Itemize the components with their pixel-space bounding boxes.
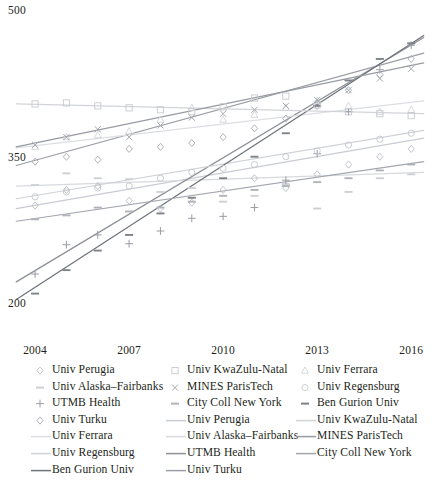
data-point-diamond <box>408 145 414 152</box>
marker-diamond-icon <box>30 362 52 379</box>
legend-item-label: Univ Regensburg <box>317 379 400 396</box>
legend-item-label: Univ Perugia <box>187 412 250 429</box>
legend-item: Univ Perugia <box>30 362 170 379</box>
y-tick-label: 200 <box>8 297 26 309</box>
data-point-triangle <box>408 106 415 112</box>
legend-item: Univ Ferrara <box>295 362 434 379</box>
legend-item-label: MINES ParisTech <box>317 428 403 445</box>
line-icon <box>295 428 317 445</box>
legend-item-label: Ben Gurion Univ <box>52 462 134 479</box>
marker-circle-icon <box>295 379 317 396</box>
legend-item-label: Univ KwaZulu-Natal <box>187 362 288 379</box>
data-point-circle <box>32 194 38 200</box>
legend-item: Univ Turku <box>30 412 170 429</box>
data-point-diamond <box>189 139 195 146</box>
data-point-diamond <box>189 199 195 206</box>
marker-dash-icon <box>30 379 52 396</box>
legend-item: Univ Ferrara <box>30 428 170 445</box>
data-point-diamond <box>63 153 69 160</box>
legend-item: MINES ParisTech <box>165 379 310 396</box>
data-point-diamond <box>95 156 101 163</box>
legend-item: City Coll New York <box>165 395 310 412</box>
trend-line-9 <box>16 162 423 222</box>
data-point-cross <box>345 87 351 93</box>
line-icon <box>165 445 187 462</box>
x-tick-label: 2010 <box>201 344 245 356</box>
data-point-circle <box>283 154 289 160</box>
trend-line-2 <box>16 37 423 281</box>
line-icon <box>295 445 317 462</box>
plot-area: 200350500 <box>0 0 434 336</box>
legend-item-label: Univ Ferrara <box>52 428 113 445</box>
data-point-circle <box>189 169 195 175</box>
legend-item-label: City Coll New York <box>317 445 412 462</box>
data-point-triangle <box>126 128 133 134</box>
data-point-diamond <box>377 153 383 160</box>
marker-dash-icon <box>295 395 317 412</box>
legend-item-label: Univ Alaska–Fairbanks <box>187 428 298 445</box>
legend-item-label: Univ KwaZulu-Natal <box>317 412 418 429</box>
marker-dash-icon <box>165 395 187 412</box>
legend-item: UTMB Health <box>30 395 170 412</box>
data-point-plus <box>94 231 102 239</box>
marker-plus-icon <box>30 395 52 412</box>
line-icon <box>165 428 187 445</box>
line-icon <box>165 462 187 479</box>
data-point-cross <box>377 75 383 81</box>
data-point-square <box>283 93 289 99</box>
x-tick-label: 2016 <box>389 344 433 356</box>
legend-item: Ben Gurion Univ <box>30 462 170 479</box>
data-point-diamond <box>220 186 226 193</box>
data-point-cross <box>408 66 414 72</box>
data-point-triangle <box>282 104 289 110</box>
legend-item-label: UTMB Health <box>187 445 255 462</box>
legend-item-label: City Coll New York <box>187 395 282 412</box>
data-point-plus <box>125 240 133 248</box>
data-point-diamond <box>126 145 132 152</box>
legend-item: Univ Regensburg <box>30 445 170 462</box>
legend-item: Univ Regensburg <box>295 379 434 396</box>
x-tick-label: 2013 <box>295 344 339 356</box>
data-point-triangle <box>376 108 383 114</box>
line-icon <box>295 412 317 429</box>
data-point-plus <box>251 204 259 212</box>
legend-item-label: Ben Gurion Univ <box>317 395 399 412</box>
trend-line-1 <box>16 172 423 186</box>
marker-cross-icon <box>165 379 187 396</box>
legend-item-label: Univ Perugia <box>52 362 115 379</box>
data-point-plus <box>31 270 39 278</box>
legend-item-label: Univ Alaska–Fairbanks <box>52 379 163 396</box>
data-point-circle <box>157 175 163 181</box>
data-point-plus <box>188 214 196 222</box>
marker-triangle-icon <box>295 362 317 379</box>
legend-item: Univ Perugia <box>165 412 310 429</box>
data-point-circle <box>377 136 383 142</box>
legend-item-label: Univ Regensburg <box>52 445 135 462</box>
data-point-triangle <box>188 104 195 110</box>
data-point-diamond <box>251 125 257 132</box>
line-icon <box>30 445 52 462</box>
legend-item-label: UTMB Health <box>52 395 120 412</box>
plot-canvas <box>0 0 434 336</box>
data-point-circle <box>251 161 257 167</box>
legend-item-label: MINES ParisTech <box>187 379 273 396</box>
data-point-plus <box>63 241 71 249</box>
x-axis: 20042007201020132016 <box>0 344 434 362</box>
legend-item: Univ Turku <box>165 462 310 479</box>
marker-square-icon <box>165 362 187 379</box>
legend-column-3: Univ FerraraUniv RegensburgBen Gurion Un… <box>295 362 434 462</box>
data-point-triangle <box>220 116 227 122</box>
legend-item-label: Univ Turku <box>187 462 242 479</box>
x-tick-label: 2004 <box>13 344 57 356</box>
legend-item: City Coll New York <box>295 445 434 462</box>
line-icon <box>30 428 52 445</box>
legend-column-1: Univ PerugiaUniv Alaska–FairbanksUTMB He… <box>30 362 170 478</box>
data-point-circle <box>126 183 132 189</box>
y-tick-label: 350 <box>8 151 26 163</box>
chart-legend: Univ PerugiaUniv Alaska–FairbanksUTMB He… <box>0 362 434 484</box>
legend-item: MINES ParisTech <box>295 428 434 445</box>
data-points-group <box>31 41 415 293</box>
legend-column-2: Univ KwaZulu-NatalMINES ParisTechCity Co… <box>165 362 310 478</box>
legend-item: UTMB Health <box>165 445 310 462</box>
data-point-plus <box>219 212 227 220</box>
